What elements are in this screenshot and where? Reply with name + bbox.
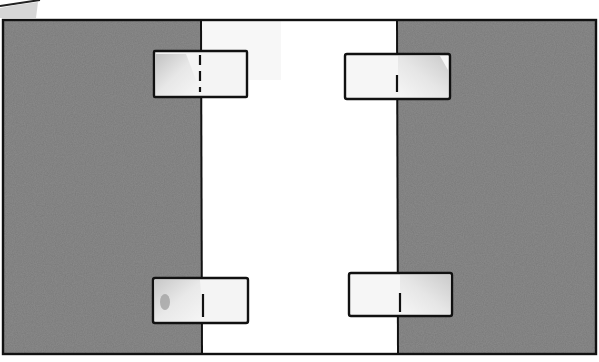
tape-bottom-left (153, 278, 248, 323)
tape-top-left (154, 51, 247, 97)
hinged-panels-diagram (0, 0, 599, 362)
tape-top-right (345, 54, 450, 99)
tape-bottom-right (349, 273, 452, 316)
